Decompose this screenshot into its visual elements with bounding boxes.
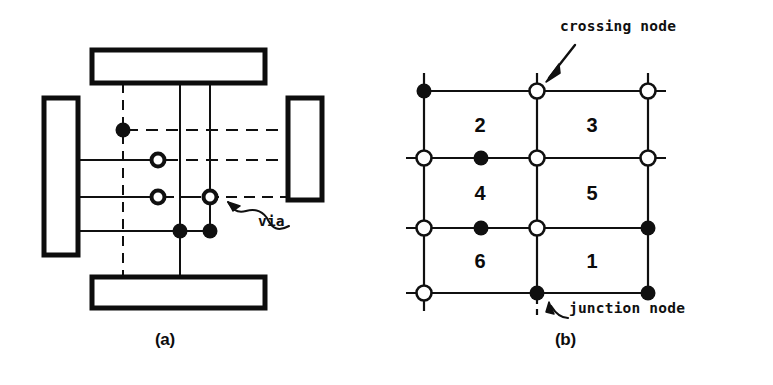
crossing-node-arrow-head <box>546 64 560 82</box>
junction-node <box>116 123 131 138</box>
junction-node-annotation-label: junction node <box>569 300 685 316</box>
right-pad <box>288 98 322 200</box>
crossing-node-annotation-label: crossing node <box>560 18 676 34</box>
region-label-3: 3 <box>586 114 597 137</box>
region-label-6: 6 <box>474 250 485 273</box>
panel-b-caption: (b) <box>555 330 576 350</box>
crossing-node <box>417 221 432 236</box>
region-label-2: 2 <box>474 114 485 137</box>
via-annotation-label: via <box>258 213 285 229</box>
via-node <box>152 154 165 167</box>
left-pad <box>44 98 78 255</box>
junction-node <box>203 224 218 239</box>
crossing-node <box>641 151 656 166</box>
junction-node <box>474 221 489 236</box>
crossing-node <box>530 84 545 99</box>
junction-node <box>641 286 656 301</box>
crossing-node <box>530 221 545 236</box>
region-label-5: 5 <box>586 182 597 205</box>
via-node <box>152 191 165 204</box>
panel-a-caption: (a) <box>155 330 175 350</box>
figure-canvas <box>0 0 773 385</box>
via-node <box>204 191 217 204</box>
region-label-1: 1 <box>586 250 597 273</box>
panel-a <box>44 50 322 308</box>
junction-node <box>641 221 656 236</box>
panel-b <box>406 45 666 318</box>
junction-node <box>474 151 489 166</box>
crossing-node <box>530 151 545 166</box>
junction-node <box>417 84 432 99</box>
region-label-4: 4 <box>474 182 485 205</box>
crossing-node <box>417 286 432 301</box>
crossing-node <box>417 151 432 166</box>
crossing-node <box>641 84 656 99</box>
top-pad <box>92 50 265 83</box>
junction-node <box>530 286 545 301</box>
via-arrow-head <box>228 202 240 211</box>
junction-node <box>173 224 188 239</box>
bottom-pad <box>92 277 265 308</box>
